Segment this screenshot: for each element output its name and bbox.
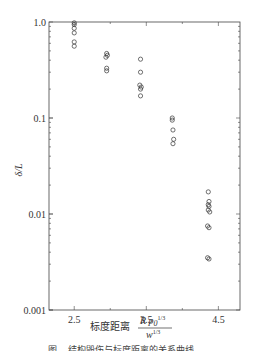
y-axis: 1.00.10.010.001 [24,17,241,316]
y-axis-label: δ/L [13,163,24,176]
y-tick-label: 0.1 [34,113,47,124]
x-axis-label: 标度距离 R p01/3 w1/3 [90,315,172,340]
data-point [138,94,142,98]
y-tick-label: 0.001 [24,305,47,316]
data-point [171,142,175,146]
data-point [72,44,76,48]
data-point [171,128,175,132]
scatter-chart: 1.00.10.010.001 2.53.54.5 δ/L 标度距离 R p01… [0,0,260,340]
plot-border [49,22,240,310]
x-axis-label-text: 标度距离 [90,320,130,332]
plot-frame [49,22,240,310]
data-point [105,69,109,73]
y-tick-label: 0.01 [29,209,47,220]
data-point [138,57,142,61]
figure-caption: 图… 结构毁伤与标度距离的关系曲线…… [0,343,260,351]
data-points [72,21,212,261]
x-axis: 2.53.54.5 [68,22,225,325]
data-point [72,31,76,35]
data-point [206,190,210,194]
data-point [72,40,76,44]
x-formula-numerator: R p01/3 [139,315,165,328]
x-tick-label: 2.5 [68,314,81,325]
x-formula-denominator: w1/3 [146,329,160,340]
x-tick-label: 4.5 [212,314,225,325]
y-tick-label: 1.0 [34,17,47,28]
data-point [138,70,142,74]
data-point [172,137,176,141]
